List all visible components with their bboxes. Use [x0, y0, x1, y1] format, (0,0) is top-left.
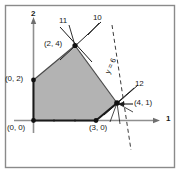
vertex-dot-0-2 [31, 78, 36, 83]
constraint-label-12: 12 [135, 80, 144, 88]
vertex-dot-4-1 [114, 100, 120, 106]
plot-canvas [0, 0, 180, 173]
vertex-label-2-4: (2, 4) [44, 40, 62, 48]
tick-mark [74, 119, 76, 121]
vertex-dot-origin [31, 118, 36, 123]
vertex-label-0-2: (0, 2) [5, 75, 23, 83]
x-axis-label: 1 [166, 115, 170, 123]
linear-programming-figure: 2 1 11 10 12 (2, 4) (0, 2) (0, 0) (3, 0)… [0, 0, 180, 173]
tick-mark [53, 119, 55, 121]
y-axis-label: 2 [31, 10, 35, 18]
vertex-label-3-0: (3, 0) [89, 124, 107, 132]
vertex-dot-2-4 [72, 43, 77, 48]
constraint-label-11: 11 [59, 17, 67, 25]
vertex-label-4-1: (4, 1) [134, 99, 152, 107]
constraint-label-10: 10 [93, 14, 102, 22]
vertex-label-origin: (0, 0) [7, 124, 25, 132]
